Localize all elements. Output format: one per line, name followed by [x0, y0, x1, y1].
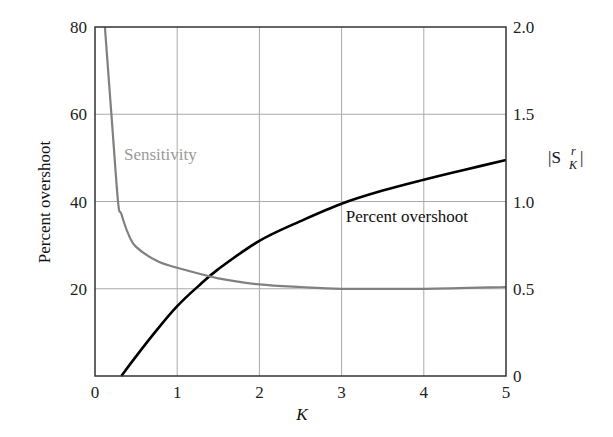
x-tick-label: 4 — [420, 383, 429, 402]
svg-text:|S: |S — [548, 148, 561, 167]
y-tick-label: 20 — [70, 280, 87, 299]
y2-tick-label: 1.5 — [513, 105, 534, 124]
y2-tick-label: 2.0 — [513, 18, 534, 37]
y2-axis-label: |S r K | — [548, 144, 583, 172]
y-tick-label: 80 — [70, 18, 87, 37]
y2-label-bar-right: | — [580, 148, 583, 167]
y2-label-sub: K — [568, 158, 578, 172]
x-tick-label: 5 — [502, 383, 511, 402]
x-tick-label: 2 — [255, 383, 264, 402]
y2-tick-label: 0 — [513, 367, 522, 386]
chart-root: 0123452040608000.51.01.52.0 Percent over… — [0, 0, 613, 437]
x-tick-label: 1 — [173, 383, 182, 402]
x-tick-label: 0 — [91, 383, 100, 402]
x-axis-label: K — [295, 405, 309, 424]
y-axis-label: Percent overshoot — [35, 141, 54, 264]
overshoot-annotation: Percent overshoot — [346, 207, 469, 226]
y2-label-sup: r — [571, 144, 576, 158]
y2-tick-label: 1.0 — [513, 193, 534, 212]
sensitivity-annotation: Sensitivity — [124, 145, 197, 164]
grid — [95, 27, 506, 376]
x-tick-label: 3 — [337, 383, 346, 402]
y-tick-label: 40 — [70, 193, 87, 212]
y2-tick-label: 0.5 — [513, 280, 534, 299]
y-tick-label: 60 — [70, 105, 87, 124]
y2-label-bar-left: |S — [548, 148, 561, 167]
